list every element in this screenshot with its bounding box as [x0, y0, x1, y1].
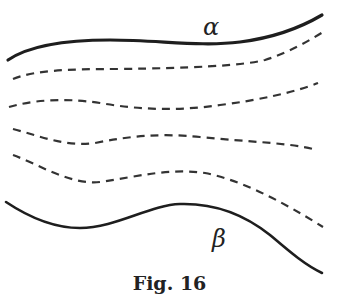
curve-alpha [8, 15, 322, 60]
curve-dashed-3 [13, 129, 313, 149]
figure-caption: Fig. 16 [0, 272, 339, 294]
curve-dashed-1 [13, 32, 323, 79]
curve-beta [6, 202, 322, 273]
curve-dashed-4 [13, 155, 323, 227]
label-alpha: α [203, 13, 219, 41]
label-beta: β [212, 225, 226, 253]
curve-dashed-2 [9, 83, 318, 109]
figure-drawing [0, 0, 339, 298]
